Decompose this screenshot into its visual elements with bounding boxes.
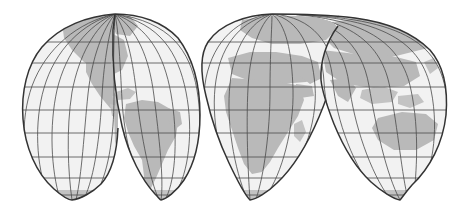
antarctica-fringe [120,190,200,204]
world-map-figure [0,0,466,218]
antarctica-fringe [30,190,118,204]
new-zealand-landmass [444,144,452,160]
antarctica-fringe [205,190,340,204]
interrupted-world-map-svg [0,0,466,218]
